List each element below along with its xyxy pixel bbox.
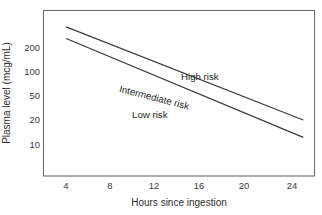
y-tick-label-100: 100	[12, 67, 40, 77]
y-tick-label-50: 50	[12, 91, 40, 101]
y-tick-label-200: 200	[12, 43, 40, 53]
x-tick-label-8: 8	[107, 181, 112, 191]
x-tick-label-4: 4	[63, 181, 68, 191]
y-tick-label-10: 10	[12, 140, 40, 150]
x-tick-label-12: 12	[149, 181, 160, 191]
x-tick-label-24: 24	[287, 181, 298, 191]
high-risk-zone-label: High risk	[181, 71, 219, 82]
plot-background	[44, 11, 315, 177]
y-tick-label-20: 20	[12, 115, 40, 125]
plot-canvas	[0, 0, 322, 215]
nomogram-figure: Plasma level (mcg/mL) 200 100 50 20 10 4…	[0, 0, 322, 215]
x-tick-label-20: 20	[239, 181, 250, 191]
x-tick-label-16: 16	[194, 181, 205, 191]
x-axis-title: Hours since ingestion	[43, 197, 315, 208]
low-risk-zone-label: Low risk	[132, 109, 168, 120]
